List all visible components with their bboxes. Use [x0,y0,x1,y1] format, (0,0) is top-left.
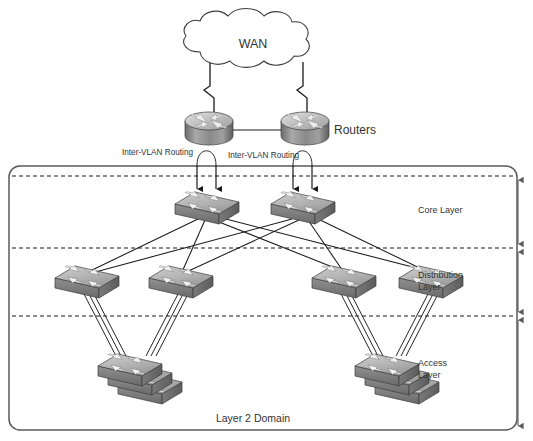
diagram-canvas: WAN Routers Inter-VLAN Routing Inter-VLA… [0,0,533,441]
wan-links [204,62,307,112]
distribution-layer-label-line1: Distribution [418,270,463,280]
wan-label: WAN [239,37,268,51]
router-to-core-arrows [197,165,312,189]
wan-link-right [297,62,307,112]
access-layer-label-line2: Layer [418,370,441,380]
intervlan-leader-left [197,151,216,165]
intervlan-label-right: Inter-VLAN Routing [228,151,299,160]
distribution-layer-label-line2: Layer [418,282,441,292]
intervlan-label-left: Inter-VLAN Routing [122,148,193,157]
wan-link-left [204,63,214,112]
router-left[interactable] [185,112,233,145]
core-layer-label: Core Layer [418,205,463,215]
wan-cloud: WAN [184,9,310,68]
core-switch-1[interactable] [175,192,239,225]
distribution-switch-1[interactable] [55,266,119,299]
distribution-switch-3[interactable] [312,266,376,299]
core-switch-2[interactable] [271,192,335,225]
routers-label: Routers [334,123,376,137]
layer2-domain-label: Layer 2 Domain [216,412,290,424]
distribution-access-links [84,294,438,356]
access-layer-label-line1: Access [418,358,448,368]
router-right[interactable] [281,112,329,145]
access-stack-left[interactable] [98,354,182,405]
network-diagram: WAN Routers Inter-VLAN Routing Inter-VLA… [0,0,533,441]
core-distribution-links [88,218,432,274]
distribution-switch-2[interactable] [149,266,213,299]
